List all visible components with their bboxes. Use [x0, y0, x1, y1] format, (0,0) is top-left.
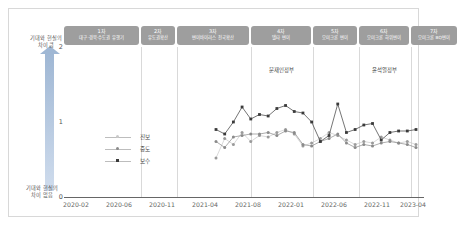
data-point	[267, 115, 270, 118]
data-point	[380, 142, 383, 145]
x-tick-0: 2020-02	[63, 201, 89, 208]
data-point	[249, 140, 252, 143]
data-point	[389, 131, 392, 134]
phase-bar-1: 1차 대구·경북·수도권 유행기	[64, 26, 139, 45]
data-point	[406, 130, 409, 133]
data-point	[275, 134, 278, 137]
data-point	[354, 128, 357, 131]
data-point	[241, 106, 244, 109]
x-tick-3: 2021-04	[192, 201, 218, 208]
data-point	[293, 131, 296, 134]
data-point	[388, 140, 391, 143]
phase-7-desc: 오미크론 BQ변이	[411, 35, 457, 41]
x-tick-4: 2021-08	[235, 201, 261, 208]
legend-marker-progressive	[105, 137, 131, 138]
data-point	[223, 133, 226, 136]
data-point	[371, 145, 374, 148]
chart-frame: 기대와 현실의 차이 큼 기대와 현실의 차이 없음 2 1 0 1차 대구·경…	[8, 8, 419, 217]
data-point	[371, 122, 374, 125]
data-point	[215, 140, 218, 143]
series-line-보수	[216, 104, 416, 142]
data-point	[267, 136, 270, 139]
data-point	[310, 121, 313, 124]
data-point	[258, 133, 261, 136]
legend: 진보 중도 보수	[105, 131, 150, 167]
x-tick-1: 2020-06	[106, 201, 132, 208]
phase-bar-5: 5차 오미크론 변이	[313, 26, 357, 45]
x-tick-2: 2020-11	[149, 201, 175, 208]
data-point	[362, 143, 365, 146]
data-point	[223, 137, 226, 140]
data-point	[249, 118, 252, 121]
data-point	[232, 121, 235, 124]
x-axis-line	[64, 197, 424, 198]
data-point	[328, 137, 331, 140]
data-point	[354, 146, 357, 149]
series-layer	[64, 47, 424, 197]
data-point	[328, 134, 331, 137]
data-point	[275, 107, 278, 110]
legend-marker-moderate	[105, 149, 131, 150]
phase-bar-3: 3차 변이바이러스 전국확산	[177, 26, 249, 45]
phase-bar-7: 7차 오미크론 BQ변이	[411, 26, 457, 45]
y-tick-2: 2	[49, 43, 63, 51]
data-point	[310, 142, 313, 145]
data-point	[223, 146, 226, 149]
data-point	[397, 142, 400, 145]
legend-marker-conservative	[105, 161, 131, 162]
data-point	[319, 140, 322, 143]
phase-2-desc: 유도권확산	[141, 35, 175, 41]
series-보수	[215, 103, 418, 143]
data-point	[249, 133, 252, 136]
data-point	[362, 140, 365, 143]
data-point	[354, 143, 357, 146]
data-point	[241, 134, 244, 137]
x-tick-7: 2022-11	[364, 201, 390, 208]
data-point	[336, 133, 339, 136]
data-point	[267, 131, 270, 134]
legend-item-moderate[interactable]: 중도	[105, 143, 150, 155]
legend-dot-progressive	[116, 135, 119, 138]
data-point	[258, 113, 261, 116]
data-point	[241, 131, 244, 134]
data-point	[415, 146, 418, 149]
data-point	[406, 140, 409, 143]
data-point	[310, 145, 313, 148]
legend-item-conservative[interactable]: 보수	[105, 155, 150, 167]
data-point	[362, 124, 365, 127]
legend-item-progressive[interactable]: 진보	[105, 131, 150, 143]
data-point	[415, 143, 418, 146]
legend-dot-conservative	[116, 159, 119, 162]
y-tick-1: 1	[49, 118, 63, 126]
legend-label-progressive: 진보	[140, 133, 150, 141]
data-point	[406, 143, 409, 146]
data-point	[345, 139, 348, 142]
data-point	[232, 143, 235, 146]
data-point	[380, 139, 383, 142]
data-point	[371, 142, 374, 145]
data-point	[215, 128, 218, 131]
x-tick-6: 2022-06	[321, 201, 347, 208]
data-point	[215, 157, 218, 160]
data-point	[302, 112, 305, 115]
phase-5-desc: 오미크론 변이	[313, 35, 357, 41]
data-point	[397, 130, 400, 133]
y-axis-bottom-note-line1: 기대와 현실의	[26, 185, 58, 191]
x-tick-5: 2022-01	[278, 201, 304, 208]
legend-label-moderate: 중도	[140, 145, 150, 153]
data-point	[415, 128, 418, 131]
phase-bar-6: 6차 오미크론 하위변이	[359, 26, 409, 45]
data-point	[275, 131, 278, 134]
y-axis-top-note-line1: 기대와 현실의	[30, 35, 62, 41]
phase-4-desc: 델타 변이	[251, 35, 311, 41]
x-tick-8: 2023-04	[400, 201, 426, 208]
data-point	[232, 136, 235, 139]
series-line-중도	[216, 131, 416, 148]
data-point	[336, 103, 339, 106]
data-point	[345, 131, 348, 134]
phase-bar-4: 4차 델타 변이	[251, 26, 311, 45]
legend-dot-moderate	[116, 147, 119, 150]
phase-1-desc: 대구·경북·수도권 유행기	[64, 35, 139, 41]
data-point	[284, 104, 287, 107]
phase-6-desc: 오미크론 하위변이	[359, 35, 409, 41]
